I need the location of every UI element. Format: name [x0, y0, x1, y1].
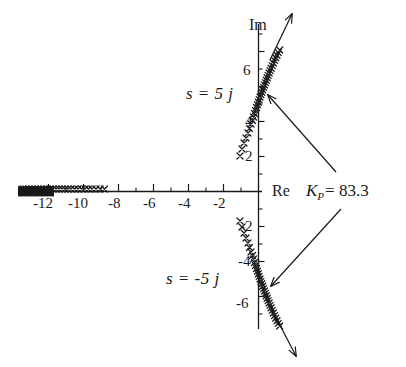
lower-branch-arrow	[272, 310, 296, 356]
real-axis-label: Re	[272, 182, 290, 200]
imag-tick-label-minus6: -6	[236, 295, 249, 312]
upper-pole-annotation: s = 5 j	[186, 84, 234, 104]
series-real-axis-branch	[18, 186, 108, 196]
imag-axis-label: Im	[249, 16, 267, 34]
imag-tick-label-minus4: -4	[238, 253, 251, 270]
real-tick-label-minus6: -6	[143, 195, 156, 212]
imag-tick-label-minus2: -2	[240, 218, 253, 235]
real-tick-label-minus8: -8	[108, 195, 121, 212]
imag-tick-label-2: 2	[245, 148, 253, 165]
upper-branch-arrow	[270, 14, 292, 60]
imag-tick-label-6: 6	[243, 62, 251, 79]
gain-value: = 83.3	[325, 181, 369, 200]
real-tick-label-minus10: -10	[68, 195, 88, 212]
real-tick-label-minus4: -4	[178, 195, 191, 212]
imag-tick-label-4: 4	[245, 113, 253, 130]
gain-leader-lower	[271, 209, 341, 286]
axis-lines	[18, 24, 262, 329]
gain-annotation: KP= 83.3	[306, 181, 369, 202]
gain-subscript: P	[317, 190, 324, 202]
lower-pole-annotation: s = -5 j	[166, 269, 220, 289]
real-tick-label-minus12: -12	[33, 195, 53, 212]
real-axis-ticks	[31, 184, 259, 192]
real-tick-label-minus2: -2	[213, 195, 226, 212]
gain-symbol: K	[306, 181, 317, 200]
gain-leader-upper	[268, 95, 336, 172]
